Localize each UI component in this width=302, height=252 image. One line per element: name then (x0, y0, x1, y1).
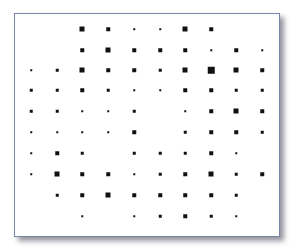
matrix-cell-square (234, 68, 239, 73)
matrix-cell-square (234, 109, 239, 114)
matrix-cell-square (30, 69, 32, 71)
matrix-cell-square (133, 152, 136, 155)
matrix-cell-square (107, 110, 109, 112)
matrix-cell-square (184, 110, 186, 112)
matrix-cell-square (56, 131, 58, 133)
matrix-cell-square (209, 151, 213, 155)
figure (0, 0, 302, 252)
matrix-cell-square (209, 130, 213, 134)
plot-frame (14, 13, 280, 237)
matrix-cell-square (183, 27, 188, 32)
matrix-cell-square (183, 48, 187, 52)
matrix-cell-square (133, 28, 135, 30)
matrix-cell-square (80, 88, 84, 92)
matrix-cell-square (210, 215, 213, 218)
matrix-cell-square (209, 193, 213, 197)
matrix-cell-square (235, 89, 238, 92)
matrix-cell-square (260, 109, 264, 113)
matrix-cell-square (30, 89, 33, 92)
matrix-cell-square (209, 27, 213, 31)
matrix-cell-square (132, 130, 136, 134)
matrix-cell-square (106, 172, 110, 176)
matrix-cell-square (106, 68, 110, 72)
matrix-cell-square (55, 151, 59, 155)
matrix-cell-square (260, 68, 264, 72)
matrix-cell-square (56, 110, 59, 113)
matrix-cell-square (106, 48, 111, 53)
matrix-cell-square (261, 49, 263, 51)
matrix-cell-square (56, 69, 59, 72)
matrix-cell-square (159, 152, 162, 155)
matrix-cell-square (210, 49, 212, 51)
matrix-cell-square (55, 172, 60, 177)
matrix-cell-square (235, 173, 238, 176)
matrix-cell-square (183, 172, 187, 176)
matrix-cell-square (159, 28, 161, 30)
matrix-cell-square (261, 131, 264, 134)
matrix-cell-square (159, 69, 162, 72)
matrix-cell-square (184, 152, 187, 155)
matrix-cell-square (158, 48, 162, 52)
matrix-cell-square (107, 131, 109, 133)
matrix-cell-square (81, 131, 83, 133)
matrix-cell-square (30, 173, 32, 175)
matrix-cell-square (235, 152, 237, 154)
matrix-cell-square (106, 193, 111, 198)
matrix-cell-square (183, 193, 187, 197)
matrix-cell-square (159, 89, 161, 91)
matrix-cell-square (235, 194, 238, 197)
matrix-cell-square (158, 193, 162, 197)
matrix-cell-square (209, 109, 213, 113)
matrix-cell-square (184, 131, 187, 134)
matrix-cell-square (81, 152, 84, 155)
matrix-cell-square (56, 194, 59, 197)
matrix-cell-square (133, 110, 136, 113)
matrix-cell-square (209, 172, 214, 177)
matrix-cell-square (132, 68, 136, 72)
matrix-cell-square (133, 173, 135, 175)
matrix-cell-square (159, 215, 162, 218)
matrix-cell-square (107, 89, 110, 92)
matrix-cell-square (81, 110, 83, 112)
matrix-cell-square (132, 193, 136, 197)
matrix-cell-square (209, 88, 213, 92)
matrix-cell-square (80, 27, 85, 32)
matrix-cell-square (183, 68, 188, 73)
matrix-cell-square (30, 152, 32, 154)
matrix-cell-square (234, 130, 238, 134)
matrix-cell-square (30, 131, 32, 133)
matrix-cell-square (234, 48, 238, 52)
matrix-cell-square (106, 27, 110, 31)
matrix-cell-square (260, 172, 264, 176)
matrix-cell-square (133, 215, 135, 217)
matrix-cell-square (208, 67, 215, 74)
matrix-cell-square (30, 110, 33, 113)
matrix-cell-square (80, 172, 84, 176)
matrix-cell-square (81, 215, 83, 217)
matrix-cell-square (183, 88, 187, 92)
matrix-cell-square (159, 173, 162, 176)
matrix-cell-square (133, 89, 135, 91)
matrix-cell-square (80, 193, 84, 197)
matrix-cell-square (56, 89, 59, 92)
matrix-cell-square (80, 68, 85, 73)
matrix-cell-square (183, 214, 187, 218)
matrix-cell-square (261, 89, 264, 92)
matrix-cell-square (80, 48, 84, 52)
matrix-cell-square (235, 215, 237, 217)
matrix-cell-square (132, 48, 136, 52)
